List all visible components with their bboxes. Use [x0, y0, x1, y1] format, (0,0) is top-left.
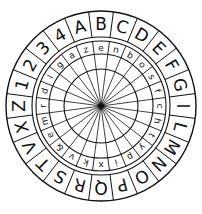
spoke [102, 108, 132, 148]
inner-divider [93, 42, 95, 55]
outer-letter: B [95, 14, 107, 34]
outer-divider [7, 115, 33, 118]
outer-divider [7, 94, 33, 97]
inner-divider [108, 158, 110, 171]
outer-letter: F [161, 56, 183, 74]
outer-letter: 1 [11, 77, 33, 93]
outer-letter: L [169, 120, 191, 135]
cipher-wheel: BCDEFGILMNOPQRSTVXZ1234A enbosfchtypixkv… [0, 0, 202, 214]
outer-letter: N [147, 152, 170, 175]
inner-letter: o [137, 59, 148, 70]
outer-letter: X [11, 119, 33, 136]
inner-letter: n [112, 44, 120, 55]
inner-letter: m [39, 116, 51, 127]
outer-letter: A [72, 16, 89, 38]
inner-letter: b [125, 50, 135, 62]
inner-letter: f [152, 88, 163, 94]
inner-divider [76, 46, 81, 58]
outer-divider [110, 174, 113, 200]
inner-divider [76, 154, 81, 166]
inner-letter: a [67, 50, 77, 61]
inner-divider [108, 42, 110, 55]
outer-letter: R [71, 174, 88, 196]
inner-letter: p [125, 151, 135, 163]
inner-divider [121, 154, 126, 166]
inner-letter: v [66, 151, 76, 163]
outer-divider [89, 12, 92, 38]
inner-letter: r [38, 104, 48, 108]
spoke [69, 108, 99, 148]
inner-letter: t [146, 131, 157, 139]
inner-letter: y [136, 142, 147, 153]
spoke [103, 107, 143, 137]
inner-letter: s [146, 72, 157, 81]
inner-divider [153, 113, 166, 115]
inner-divider [149, 81, 161, 86]
outer-letter: C [114, 16, 131, 38]
outer-letter: G [169, 76, 192, 94]
spoke [69, 65, 99, 105]
outer-letter: Z [9, 100, 29, 112]
inner-divider [121, 46, 126, 58]
inner-letter: e [44, 130, 56, 140]
outer-letter: P [115, 174, 130, 196]
inner-divider [37, 98, 50, 100]
inner-letter: k [81, 157, 89, 168]
center-hub [98, 103, 104, 109]
outer-divider [110, 12, 113, 38]
spoke [102, 65, 132, 105]
spoke [103, 74, 143, 104]
inner-divider [93, 158, 95, 171]
inner-letter: e [98, 43, 104, 53]
inner-letter: i [114, 157, 119, 167]
outer-divider [169, 94, 195, 97]
inner-letter: c [155, 104, 165, 109]
inner-letter: l [45, 73, 55, 80]
inner-letter: h [152, 117, 163, 125]
spoke [60, 74, 100, 104]
inner-divider [41, 81, 53, 86]
outer-letter: Q [94, 178, 107, 198]
inner-divider [153, 98, 166, 100]
inner-letter: x [98, 160, 104, 170]
inner-letter: z [82, 44, 89, 55]
inner-letter: g [54, 59, 65, 70]
outer-divider [169, 115, 195, 118]
inner-letter: d [39, 87, 50, 95]
spoke [60, 107, 100, 137]
inner-divider [142, 66, 152, 74]
inner-divider [149, 126, 161, 131]
outer-letter: I [173, 103, 193, 108]
inner-divider [37, 113, 50, 115]
outer-divider [89, 174, 92, 200]
